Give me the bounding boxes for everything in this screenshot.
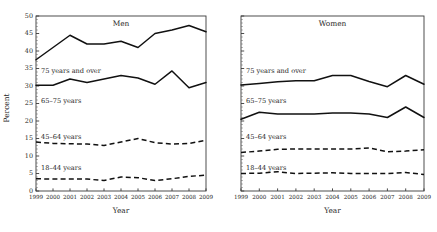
y-tick-label-50: 50 <box>25 12 33 20</box>
x-tick-label-men-2002: 2002 <box>80 194 95 200</box>
series-label-men-a18: 18–44 years <box>41 164 82 172</box>
panel-women: 1999200020012002200320042005200620072008… <box>234 16 432 215</box>
series-label-men-a45: 45–64 years <box>41 133 82 141</box>
x-tick-label-men-2007: 2007 <box>165 194 180 200</box>
x-tick-label-men-2009: 2009 <box>199 194 214 200</box>
series-line-men-a18 <box>36 175 206 180</box>
x-axis-title-women: Year <box>323 206 341 215</box>
series-label-men-a65: 65–75 years <box>41 97 82 105</box>
x-tick-label-women-2004: 2004 <box>325 194 340 200</box>
x-tick-label-women-2002: 2002 <box>289 194 304 200</box>
x-tick-label-men-2003: 2003 <box>97 194 112 200</box>
series-line-women-a18 <box>241 172 424 175</box>
chart-canvas: Percent 05101520253035404550199920002001… <box>0 0 437 232</box>
y-axis-title: Percent <box>2 94 11 123</box>
y-tick-label-40: 40 <box>25 47 33 55</box>
series-line-men-a75 <box>36 25 206 59</box>
x-tick-label-men-1999: 1999 <box>29 194 44 200</box>
series-label-women-a18: 18–44 years <box>246 164 287 172</box>
series-label-women-a75: 75 years and over <box>246 67 307 75</box>
x-tick-label-women-2003: 2003 <box>307 194 322 200</box>
x-tick-label-women-1999: 1999 <box>234 194 249 200</box>
y-axis-title-group: Percent <box>2 94 11 123</box>
panel-title-women: Women <box>319 19 347 28</box>
y-tick-label-15: 15 <box>25 134 33 142</box>
x-tick-label-women-2009: 2009 <box>417 194 432 200</box>
series-line-women-a75 <box>241 76 424 87</box>
y-tick-label-10: 10 <box>25 152 33 160</box>
y-tick-label-5: 5 <box>29 169 33 177</box>
figure-container: Percent 05101520253035404550199920002001… <box>0 0 437 232</box>
x-tick-label-men-2004: 2004 <box>114 194 129 200</box>
series-line-women-a65 <box>241 107 424 119</box>
y-tick-label-30: 30 <box>25 82 33 90</box>
panel-men: 0510152025303540455019992000200120022003… <box>25 12 214 215</box>
x-tick-label-men-2006: 2006 <box>148 194 163 200</box>
y-tick-label-45: 45 <box>25 29 33 37</box>
x-tick-label-men-2000: 2000 <box>46 194 61 200</box>
x-tick-label-women-2000: 2000 <box>252 194 267 200</box>
y-tick-label-35: 35 <box>25 64 33 72</box>
series-label-men-a75: 75 years and over <box>41 67 102 75</box>
x-tick-label-women-2006: 2006 <box>362 194 377 200</box>
x-tick-label-men-2001: 2001 <box>63 194 77 200</box>
series-label-women-a45: 45–64 years <box>246 133 287 141</box>
series-label-women-a65: 65–75 years <box>246 97 287 105</box>
series-line-women-a45 <box>241 148 424 153</box>
y-tick-label-20: 20 <box>25 117 33 125</box>
y-tick-label-25: 25 <box>25 99 33 107</box>
x-tick-label-men-2005: 2005 <box>131 194 146 200</box>
x-axis-title-men: Year <box>112 206 130 215</box>
x-tick-label-women-2001: 2001 <box>270 194 284 200</box>
x-tick-label-women-2005: 2005 <box>344 194 359 200</box>
x-tick-label-women-2008: 2008 <box>399 194 414 200</box>
panel-title-men: Men <box>113 19 130 28</box>
x-tick-label-women-2007: 2007 <box>380 194 395 200</box>
x-tick-label-men-2008: 2008 <box>182 194 197 200</box>
